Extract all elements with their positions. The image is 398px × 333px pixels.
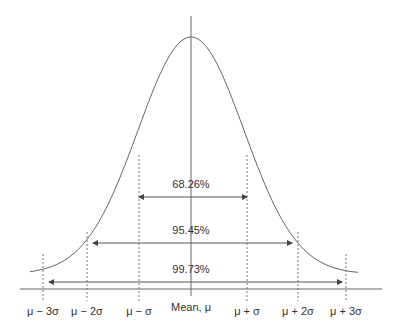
tick-label-m2: μ − 2σ <box>71 305 103 317</box>
percent-68: 68.26% <box>172 178 209 190</box>
bell-curve-graphic <box>0 0 398 333</box>
percent-99: 99.73% <box>172 263 209 275</box>
percent-95: 95.45% <box>172 224 209 236</box>
tick-label-p3: μ + 3σ <box>330 305 362 317</box>
tick-label-m3: μ − 3σ <box>27 305 59 317</box>
tick-label-p2: μ + 2σ <box>282 305 314 317</box>
tick-label-mean: Mean, μ <box>171 301 211 313</box>
bell-curve <box>30 37 358 272</box>
tick-label-p1: μ + σ <box>234 305 260 317</box>
tick-label-m1: μ − σ <box>126 305 152 317</box>
normal-distribution-diagram: 68.26% 95.45% 99.73% μ − 3σ μ − 2σ μ − σ… <box>0 0 398 333</box>
